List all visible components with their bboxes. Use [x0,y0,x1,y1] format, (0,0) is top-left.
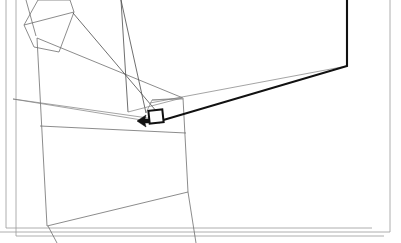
frame-border-outer [6,0,372,228]
frame-border-inner [0,0,390,232]
highlighted-detail-rect[interactable] [148,109,163,123]
drawing-canvas [0,0,401,243]
frame-border-middle [16,0,384,236]
drawing-svg [0,0,401,243]
thin-return-edge [150,66,347,103]
highlighted-thick-polyline [152,0,347,122]
panel-divider-line [40,126,186,133]
panel-extension-bottom-left [48,226,57,243]
top-left-quad-group [24,0,74,52]
wire-line-diagonal-main [73,13,157,112]
wire-line-horizon-lower [13,99,160,123]
frame-group [0,0,390,236]
tilted-panel-group [26,0,196,243]
panel-extension-bottom-right [188,192,196,243]
top-quad-outline [24,0,74,52]
